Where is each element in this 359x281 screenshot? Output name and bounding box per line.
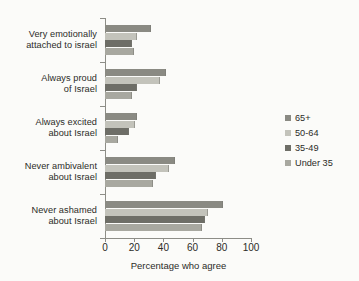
- bar: [105, 172, 156, 179]
- bar-group: [105, 69, 251, 99]
- bar: [105, 157, 175, 164]
- legend-swatch-icon: [285, 160, 291, 166]
- legend-item[interactable]: 35-49: [285, 140, 333, 155]
- bar-group: [105, 25, 251, 55]
- bar: [105, 165, 169, 172]
- legend-label: 35-49: [295, 143, 319, 153]
- category-label-line: of Israel: [0, 84, 97, 96]
- plot-area: [105, 18, 251, 238]
- bar: [105, 216, 205, 223]
- category-label-line: Very emotionally: [0, 29, 97, 41]
- bar-row: [105, 165, 168, 172]
- bar: [105, 69, 166, 76]
- bar-row: [105, 92, 131, 99]
- category-label-line: Always proud: [0, 73, 97, 85]
- category-label-line: about Israel: [0, 216, 97, 228]
- bar-row: [105, 69, 165, 76]
- legend-item[interactable]: 50-64: [285, 125, 333, 140]
- legend-label: Under 35: [295, 158, 333, 168]
- category-label-line: attached to israel: [0, 40, 97, 52]
- category-label: Very emotionallyattached to israel: [0, 29, 97, 52]
- legend-label: 65+: [295, 113, 311, 123]
- category-label: Always excitedabout Israel: [0, 117, 97, 140]
- bar-row: [105, 224, 201, 231]
- legend-item[interactable]: 65+: [285, 110, 333, 125]
- bar-group: [105, 157, 251, 187]
- bar: [105, 201, 223, 208]
- bar-chart: Very emotionallyattached to israelAlways…: [0, 0, 359, 281]
- bar: [105, 136, 118, 143]
- bar-row: [105, 25, 150, 32]
- x-axis-line: [105, 238, 252, 239]
- bar-row: [105, 77, 159, 84]
- bar: [105, 180, 153, 187]
- category-label: Always proudof Israel: [0, 73, 97, 96]
- bar-row: [105, 48, 133, 55]
- bar: [105, 113, 137, 120]
- bar-row: [105, 84, 136, 91]
- bar-row: [105, 172, 155, 179]
- category-label-line: about Israel: [0, 128, 97, 140]
- bar-row: [105, 201, 222, 208]
- bar: [105, 209, 208, 216]
- x-tick-label: 100: [231, 242, 271, 253]
- bar: [105, 48, 134, 55]
- bar: [105, 33, 137, 40]
- bar: [105, 121, 135, 128]
- bar: [105, 77, 160, 84]
- category-label: Never ashamedabout Israel: [0, 205, 97, 228]
- bar: [105, 84, 137, 91]
- category-label-line: Always excited: [0, 117, 97, 129]
- category-label-line: Never ashamed: [0, 205, 97, 217]
- x-axis-title: Percentage who agree: [105, 260, 252, 271]
- legend-item[interactable]: Under 35: [285, 155, 333, 170]
- legend-swatch-icon: [285, 145, 291, 151]
- legend: 65+50-6435-49Under 35: [285, 110, 333, 170]
- legend-swatch-icon: [285, 115, 291, 121]
- bar: [105, 224, 202, 231]
- category-label-line: about Israel: [0, 172, 97, 184]
- bar-row: [105, 40, 131, 47]
- bar: [105, 40, 132, 47]
- bar-row: [105, 180, 152, 187]
- bar-row: [105, 216, 204, 223]
- category-label-line: Never ambivalent: [0, 161, 97, 173]
- bar-row: [105, 157, 174, 164]
- bar-row: [105, 121, 134, 128]
- bar: [105, 92, 132, 99]
- bar-group: [105, 201, 251, 231]
- bar-row: [105, 33, 136, 40]
- legend-swatch-icon: [285, 130, 291, 136]
- legend-label: 50-64: [295, 128, 319, 138]
- bar: [105, 25, 151, 32]
- bar-row: [105, 128, 128, 135]
- bar-row: [105, 113, 136, 120]
- bar-row: [105, 136, 117, 143]
- bar: [105, 128, 129, 135]
- bar-group: [105, 113, 251, 143]
- bar-row: [105, 209, 207, 216]
- category-label: Never ambivalentabout Israel: [0, 161, 97, 184]
